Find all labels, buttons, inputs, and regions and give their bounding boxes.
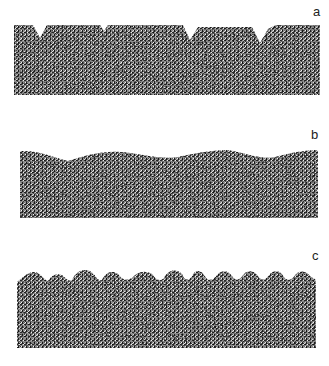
panel-label-b: b bbox=[311, 127, 318, 142]
panel-a bbox=[14, 25, 320, 95]
panel-label-c: c bbox=[312, 248, 319, 263]
panel-b bbox=[20, 150, 318, 218]
panel-label-a: a bbox=[313, 4, 320, 19]
panel-c bbox=[17, 270, 316, 348]
stipple-figure bbox=[0, 0, 329, 366]
